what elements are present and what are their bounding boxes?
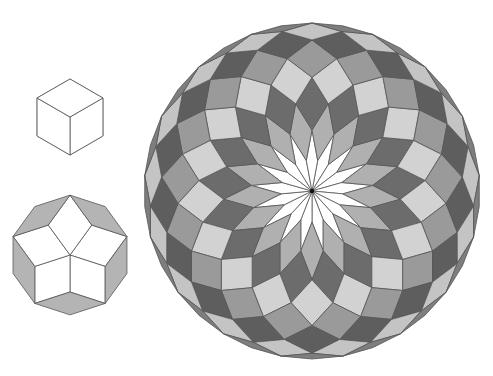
rhombic-tilings-diagram	[0, 0, 493, 376]
cube-hexagon-figure	[37, 79, 103, 155]
decagon-rhombic-tiling-figure	[13, 195, 127, 315]
large-rhombic-zonogon-figure	[145, 23, 480, 359]
rhombus-tile	[205, 107, 242, 140]
rhombus-tile	[372, 257, 403, 291]
center-point	[310, 189, 314, 193]
rhombus-tile	[383, 107, 420, 140]
rhombus-tile	[221, 257, 252, 291]
